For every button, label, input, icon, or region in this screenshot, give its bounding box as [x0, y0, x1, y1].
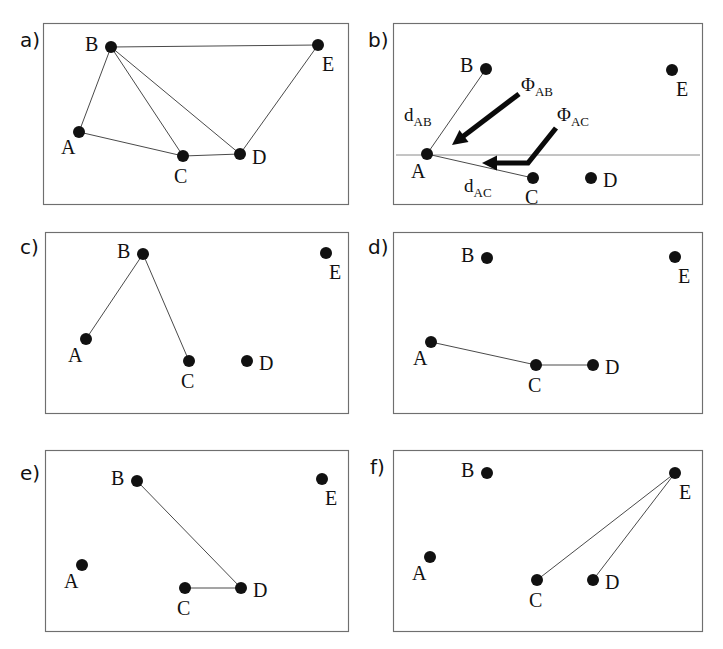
node-B-panel-c	[137, 248, 149, 260]
node-B-panel-a	[105, 41, 117, 53]
panel-border-e	[46, 451, 349, 632]
node-C-panel-d	[530, 359, 542, 371]
node-label-D-panel-a: D	[252, 146, 266, 168]
node-label-B-panel-a: B	[85, 33, 98, 55]
node-label-D-panel-b: D	[603, 169, 617, 191]
node-label-D-panel-c: D	[259, 352, 273, 374]
node-label-C-panel-b: C	[525, 186, 538, 208]
node-D-panel-f	[587, 574, 599, 586]
panel-letter-b: b)	[368, 28, 389, 52]
panel-c: c)ABCDE	[20, 233, 349, 414]
panel-f: f)ABCDE	[370, 451, 703, 632]
node-C-panel-c	[183, 355, 195, 367]
panel-border-c	[46, 233, 349, 414]
node-label-E-panel-c: E	[329, 261, 341, 283]
node-D-panel-a	[234, 148, 246, 160]
node-label-B-panel-f: B	[461, 459, 474, 481]
panel-a: a)ABCDE	[20, 24, 349, 205]
node-C-panel-e	[179, 582, 191, 594]
node-B-panel-d	[481, 252, 493, 264]
node-label-E-panel-b: E	[676, 78, 688, 100]
node-label-C-panel-e: C	[177, 597, 190, 619]
node-label-C-panel-c: C	[181, 370, 194, 392]
node-label-B-panel-c: B	[117, 240, 130, 262]
panel-letter-d: d)	[368, 235, 389, 259]
node-D-panel-e	[235, 582, 247, 594]
node-C-panel-f	[531, 574, 543, 586]
node-B-panel-e	[131, 475, 143, 487]
node-D-panel-c	[241, 355, 253, 367]
node-label-E-panel-a: E	[322, 53, 334, 75]
node-label-E-panel-d: E	[678, 265, 690, 287]
panel-border-b	[394, 24, 703, 205]
panel-d: d)ABCDE	[368, 233, 703, 414]
node-B-panel-f	[481, 467, 493, 479]
node-label-C-panel-a: C	[174, 165, 187, 187]
node-label-D-panel-e: D	[253, 579, 267, 601]
node-label-C-panel-d: C	[528, 374, 541, 396]
panel-letter-c: c)	[20, 235, 39, 259]
node-label-A-panel-d: A	[413, 347, 428, 369]
figure-container: a)ABCDEb)ABCDEdABdACΦABΦACc)ABCDEd)ABCDE…	[0, 0, 723, 649]
node-E-panel-a	[312, 39, 324, 51]
node-E-panel-d	[669, 251, 681, 263]
node-label-A-panel-f: A	[412, 562, 427, 584]
panel-e: e)ABCDE	[20, 451, 349, 632]
node-label-A-panel-c: A	[68, 344, 83, 366]
node-label-E-panel-f: E	[679, 481, 691, 503]
node-label-D-panel-f: D	[605, 571, 619, 593]
node-E-panel-c	[320, 247, 332, 259]
node-D-panel-b	[585, 172, 597, 184]
figure-svg: a)ABCDEb)ABCDEdABdACΦABΦACc)ABCDEd)ABCDE…	[0, 0, 723, 649]
node-label-A-panel-b: A	[411, 160, 426, 182]
node-label-C-panel-f: C	[529, 589, 542, 611]
node-label-B-panel-b: B	[460, 54, 473, 76]
panel-letter-a: a)	[20, 28, 40, 52]
panel-border-d	[394, 233, 703, 414]
node-label-A-panel-e: A	[64, 570, 79, 592]
panel-b: b)ABCDEdABdACΦABΦAC	[368, 24, 703, 209]
node-E-panel-b	[666, 64, 678, 76]
node-C-panel-a	[177, 150, 189, 162]
node-label-A-panel-a: A	[61, 136, 76, 158]
node-E-panel-e	[316, 473, 328, 485]
node-label-D-panel-d: D	[605, 356, 619, 378]
node-label-B-panel-e: B	[111, 467, 124, 489]
node-E-panel-f	[669, 467, 681, 479]
node-B-panel-b	[480, 63, 492, 75]
node-label-B-panel-d: B	[461, 244, 474, 266]
node-C-panel-b	[527, 172, 539, 184]
panel-letter-f: f)	[370, 455, 385, 479]
node-label-E-panel-e: E	[325, 487, 337, 509]
node-A-panel-b	[421, 148, 433, 160]
node-D-panel-d	[587, 359, 599, 371]
panel-letter-e: e)	[20, 461, 40, 485]
panel-border-f	[394, 451, 703, 632]
